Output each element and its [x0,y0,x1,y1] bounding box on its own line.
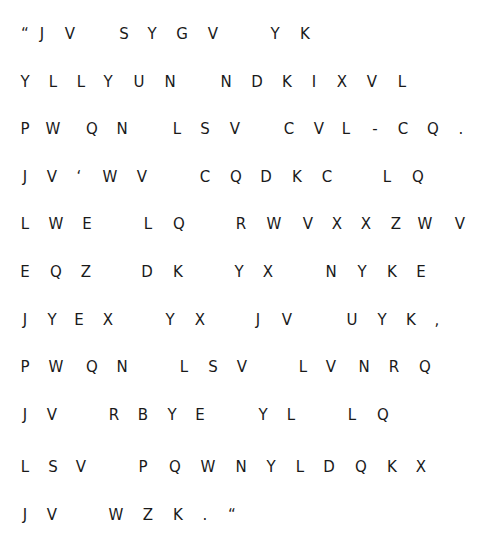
cipher-glyph: L [144,212,152,236]
cipher-line-8: PWQNLSVLVNRQ [0,355,486,379]
cipher-glyph: R [389,355,399,379]
cipher-line-5: LWELQRWVXXZWV [0,212,486,236]
cipher-glyph: Y [377,308,386,332]
cipher-glyph: N [235,455,246,479]
cipher-glyph: N [325,260,336,284]
cipher-glyph: X [195,308,205,332]
cipher-glyph: N [116,117,127,141]
cipher-glyph: V [237,355,247,379]
cipher-glyph: X [416,455,426,479]
cipher-glyph: E [416,260,425,284]
cipher-glyph: D [260,165,272,189]
cipher-glyph: Q [173,212,185,236]
cipher-glyph: L [287,403,295,427]
cipher-glyph: W [418,212,433,236]
cipher-glyph: P [138,455,147,479]
cipher-glyph: D [323,455,335,479]
cipher-glyph: Q [355,455,367,479]
cipher-glyph: X [263,260,273,284]
cipher-glyph: J [40,22,44,46]
cipher-glyph: J [23,503,27,527]
cipher-glyph: P [20,117,29,141]
cipher-glyph: W [103,165,118,189]
cipher-glyph: V [137,165,147,189]
cipher-glyph: G [176,22,188,46]
cipher-glyph: S [200,117,210,141]
cipher-glyph: V [208,22,218,46]
cipher-glyph: W [201,455,216,479]
cipher-glyph: C [398,117,408,141]
cipher-glyph: Y [165,308,174,332]
cipher-line-3: PWQNLSVCVL-CQ. [0,117,486,141]
cipher-glyph: Y [258,403,267,427]
cipher-line-9: JVRBYEYLLQ [0,403,486,427]
cipher-glyph: ‘ [77,165,82,189]
cipher-glyph: Y [266,455,275,479]
cipher-glyph: K [173,260,183,284]
cipher-glyph: L [173,117,181,141]
cipher-glyph: Q [169,455,181,479]
cipher-glyph: Q [412,165,424,189]
cipher-glyph: E [195,403,204,427]
cipher-glyph: Q [86,355,98,379]
cipher-glyph: S [208,355,218,379]
cipher-glyph: V [326,355,336,379]
cipher-glyph: Q [86,117,98,141]
cipher-glyph: Q [50,260,62,284]
cipher-glyph: V [230,117,240,141]
cipher-glyph: V [303,212,313,236]
cipher-glyph: V [76,455,86,479]
cipher-glyph: L [296,455,304,479]
cipher-glyph: V [367,70,377,94]
cipher-line-10: LSVPQWNYLDQKX [0,455,486,479]
cipher-glyph: B [138,403,148,427]
cipher-glyph: X [337,70,347,94]
cipher-glyph: Z [391,212,401,236]
cipher-glyph: J [23,403,27,427]
cipher-glyph: V [455,212,465,236]
cipher-glyph: Z [143,503,153,527]
cipher-glyph: Y [167,403,176,427]
cipher-glyph: N [116,355,127,379]
cipher-glyph: Y [270,22,279,46]
cipher-glyph: X [332,212,342,236]
cipher-glyph: X [103,308,113,332]
cipher-line-7: JYEXYXJVUYK, [0,308,486,332]
cipher-glyph: K [292,165,302,189]
cipher-glyph: Q [419,355,431,379]
cipher-glyph: J [256,308,260,332]
cipher-glyph: L [348,403,356,427]
cipher-line-6: EQZDKYXNYKE [0,260,486,284]
cipher-glyph: Y [47,308,56,332]
cipher-glyph: N [220,70,231,94]
cipher-glyph: S [119,22,129,46]
cipher-glyph: D [141,260,153,284]
cipher-glyph: Y [234,260,243,284]
cipher-glyph: C [322,165,332,189]
cipher-glyph: K [387,455,397,479]
cipher-glyph: K [300,22,310,46]
cipher-glyph: W [46,117,61,141]
cipher-glyph: K [282,70,292,94]
cipher-glyph: L [77,70,85,94]
cipher-glyph: K [406,308,416,332]
cipher-glyph: R [109,403,119,427]
cipher-glyph: L [383,165,391,189]
cipher-glyph: I [312,70,316,94]
cipher-glyph: Q [230,165,242,189]
cipher-glyph: C [284,117,294,141]
cipher-glyph: P [20,355,29,379]
cipher-glyph: W [49,355,64,379]
cipher-glyph: N [358,355,369,379]
cipher-line-11: JVWZK.“ [0,503,486,527]
cipher-glyph: W [267,212,282,236]
cipher-glyph: K [173,503,183,527]
cipher-glyph: W [109,503,124,527]
cipher-glyph: Y [20,70,29,94]
cipher-glyph: V [282,308,292,332]
cipher-glyph: , [435,308,440,332]
cipher-line-2: YLLYUNNDKIXVL [0,70,486,94]
cipher-glyph: X [361,212,371,236]
cipher-glyph: R [236,212,246,236]
cipher-glyph: L [21,212,29,236]
